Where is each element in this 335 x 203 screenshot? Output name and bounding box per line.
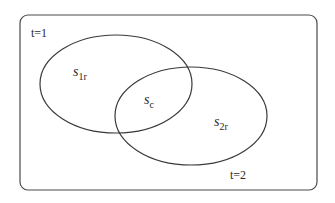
time-label-t1: t=1 <box>31 26 47 40</box>
outer-frame <box>20 15 317 190</box>
intersection-sc-label: sc <box>144 92 154 110</box>
set-s2r-subscript: 2r <box>219 121 228 132</box>
time-label-t2: t=2 <box>230 168 246 182</box>
set-s1r-label: s1r <box>73 64 87 82</box>
venn-diagram: t=1 s1r sc s2r t=2 <box>0 0 335 203</box>
set-s2r-ellipse <box>115 67 267 165</box>
set-s1r-subscript: 1r <box>78 71 87 82</box>
intersection-subscript: c <box>149 99 154 110</box>
set-s1r-ellipse <box>40 35 192 133</box>
set-s2r-label: s2r <box>214 114 228 132</box>
